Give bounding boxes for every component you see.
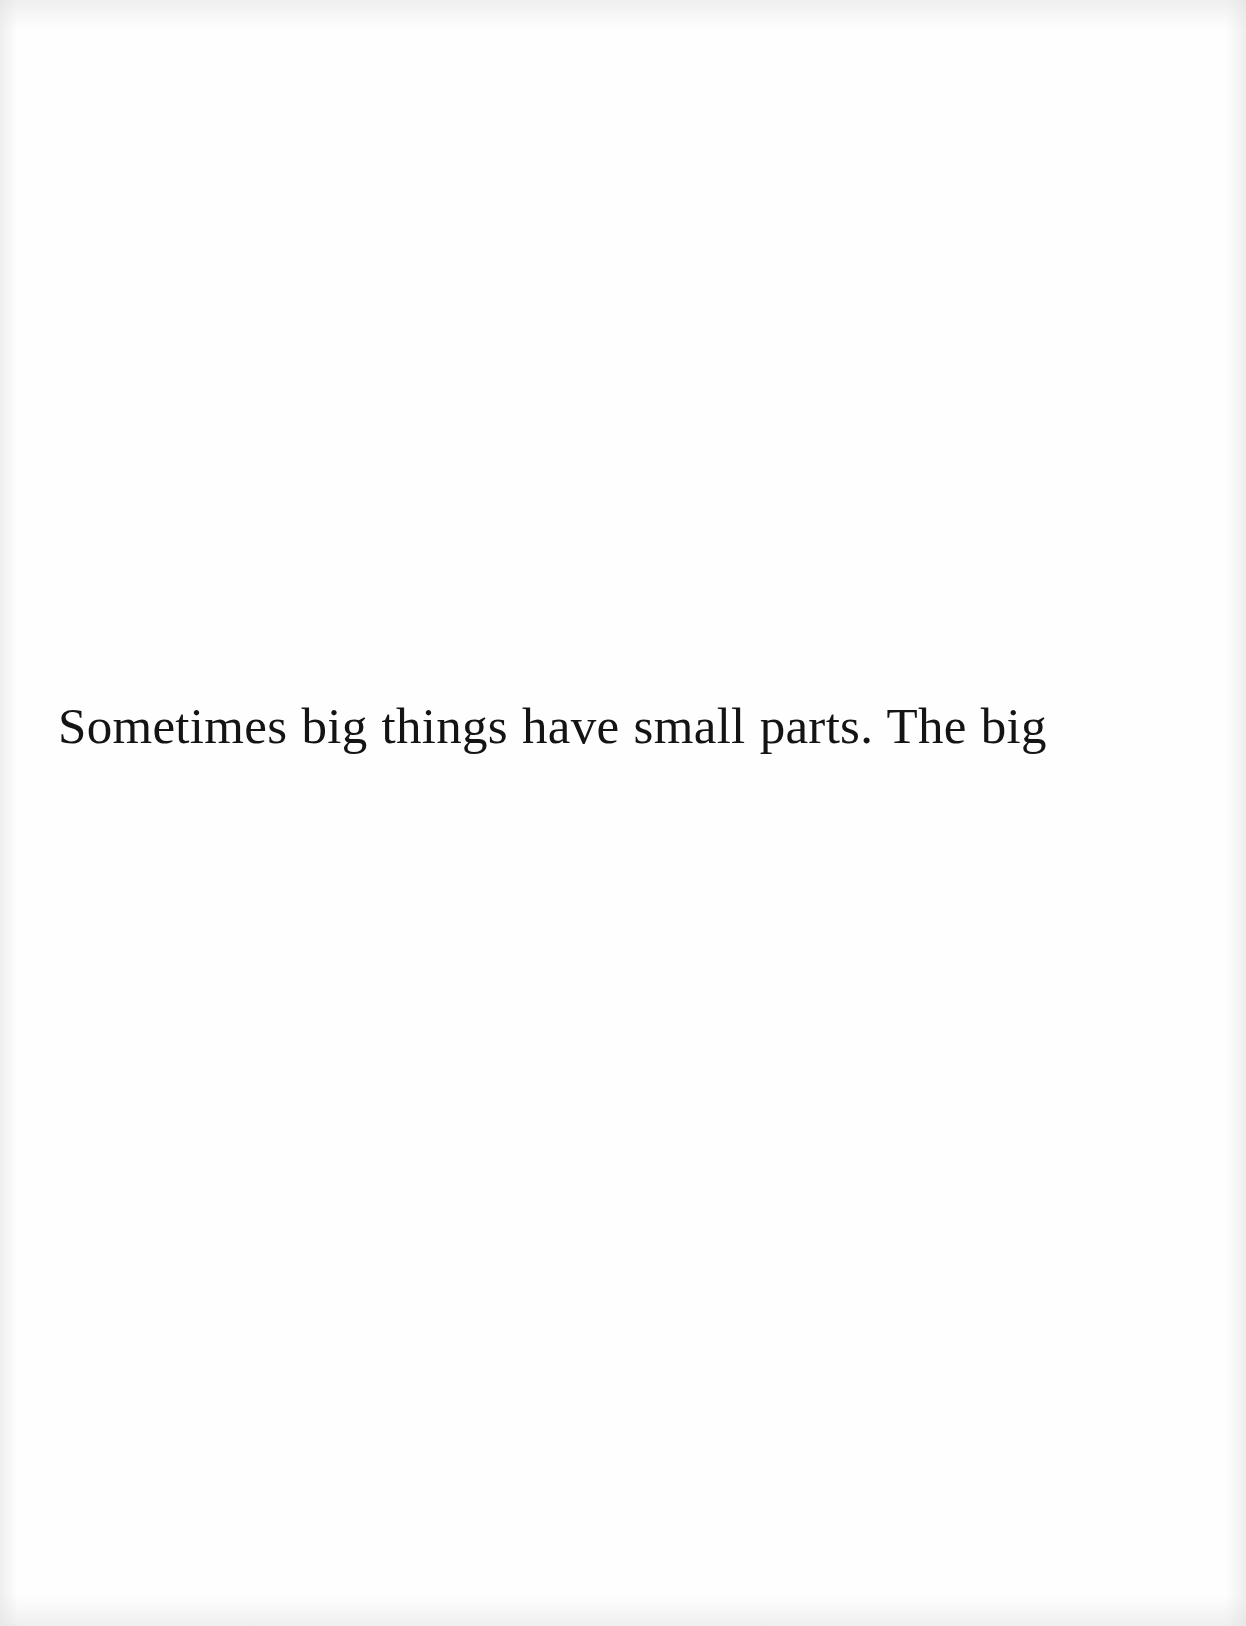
body-text-line: Sometimes big things have small parts. T… <box>58 694 1208 758</box>
book-page: Sometimes big things have small parts. T… <box>0 0 1246 1626</box>
